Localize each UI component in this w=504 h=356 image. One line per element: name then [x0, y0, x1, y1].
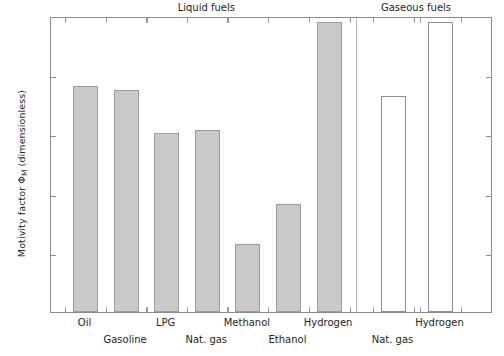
- x-tick-mark: [373, 307, 374, 312]
- y-tick-mark: [51, 136, 56, 137]
- x-axis-label-nat-gas: Nat. gas: [372, 334, 414, 345]
- x-tick-mark-top: [420, 18, 421, 23]
- x-tick-mark-top: [309, 18, 310, 23]
- y-tick-mark-right: [486, 77, 491, 78]
- x-axis-label-methanol: Methanol: [224, 317, 270, 328]
- x-tick-mark: [65, 307, 66, 312]
- x-tick-mark: [106, 307, 107, 312]
- x-tick-mark: [420, 307, 421, 312]
- x-axis-label-hydrogen: Hydrogen: [304, 317, 353, 328]
- x-tick-mark-top: [146, 18, 147, 23]
- y-tick-mark-right: [486, 196, 491, 197]
- motivity-factor-bar-chart: Motivity factor ΦM (dimensionless) 00.20…: [0, 0, 504, 356]
- bar-lpg-liquid: [154, 133, 179, 312]
- plot-area: [50, 17, 492, 313]
- y-axis-title-subscript: M: [20, 170, 29, 177]
- bar-methanol-liquid: [235, 244, 260, 312]
- x-tick-mark-top: [187, 18, 188, 23]
- y-tick-mark-right: [486, 136, 491, 137]
- y-axis-title-tail: (dimensionless): [16, 90, 27, 170]
- y-axis-title-main: Motivity factor Φ: [16, 176, 27, 257]
- x-tick-mark-top: [414, 18, 415, 23]
- x-tick-mark: [309, 307, 310, 312]
- y-tick-mark: [51, 255, 56, 256]
- group-header-liquid-fuels: Liquid fuels: [178, 2, 235, 13]
- x-tick-mark: [268, 307, 269, 312]
- bar-ethanol-liquid: [276, 204, 301, 312]
- group-separator: [356, 18, 357, 312]
- x-axis-label-gasoline: Gasoline: [103, 334, 146, 345]
- x-tick-mark: [414, 307, 415, 312]
- y-axis-title: Motivity factor ΦM (dimensionless): [16, 49, 27, 299]
- x-tick-mark: [350, 307, 351, 312]
- y-tick-mark: [51, 196, 56, 197]
- x-tick-mark-top: [65, 18, 66, 23]
- bar-nat-gas-liquid: [195, 130, 220, 312]
- y-tick-mark-right: [486, 255, 491, 256]
- x-tick-mark-top: [227, 18, 228, 23]
- x-tick-mark-top: [461, 18, 462, 23]
- x-axis-label-hydrogen: Hydrogen: [415, 317, 464, 328]
- x-axis-label-lpg: LPG: [156, 317, 175, 328]
- x-axis-label-ethanol: Ethanol: [269, 334, 307, 345]
- x-axis-label-nat-gas: Nat. gas: [186, 334, 228, 345]
- bar-hydrogen-gaseous: [428, 22, 453, 312]
- group-header-gaseous-fuels: Gaseous fuels: [381, 2, 451, 13]
- bar-nat-gas-gaseous: [381, 96, 406, 312]
- x-tick-mark: [461, 307, 462, 312]
- x-tick-mark-top: [268, 18, 269, 23]
- bar-hydrogen-liquid: [317, 22, 342, 312]
- x-tick-mark-top: [350, 18, 351, 23]
- x-tick-mark-top: [106, 18, 107, 23]
- x-tick-mark: [227, 307, 228, 312]
- x-axis-label-oil: Oil: [78, 317, 91, 328]
- x-tick-mark-top: [373, 18, 374, 23]
- x-tick-mark: [146, 307, 147, 312]
- bar-oil-liquid: [73, 86, 98, 312]
- y-tick-mark: [51, 77, 56, 78]
- bar-gasoline-liquid: [114, 90, 139, 312]
- x-tick-mark: [187, 307, 188, 312]
